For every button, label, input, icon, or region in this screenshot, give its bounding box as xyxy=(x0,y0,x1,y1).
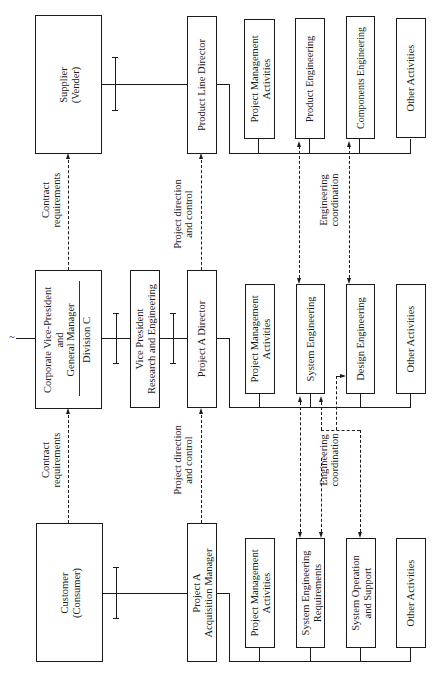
project-a-director-label: Project A Director xyxy=(196,301,208,377)
break-cap xyxy=(113,363,119,364)
mid-other-activities-label: Other Activities xyxy=(405,306,417,373)
direction-label-bottom: Project direction and control xyxy=(172,410,194,510)
stub xyxy=(259,648,260,661)
design-engineering-box: Design Engineering xyxy=(346,284,375,394)
stub xyxy=(360,648,361,661)
contract-dashed-bottom xyxy=(68,415,69,523)
stub xyxy=(259,394,260,407)
break-cap xyxy=(170,363,176,364)
stub xyxy=(310,648,311,661)
bot-other-activities-label: Other Activities xyxy=(405,560,417,627)
supplier-label: Supplier (Vender) xyxy=(57,66,80,103)
top-pm-activities-label: Project Management Activities xyxy=(248,35,271,122)
stub xyxy=(258,139,259,153)
arrow-up-icon xyxy=(66,153,70,159)
system-operation-box: System Operation and Support xyxy=(346,538,376,648)
eng-dashed-3 xyxy=(300,402,301,532)
break-cap xyxy=(170,313,176,314)
system-engineering-label: System Engineering xyxy=(305,297,317,382)
stub xyxy=(360,394,361,407)
acquisition-manager-box: Project A Acquisition Manager xyxy=(187,523,217,662)
arrow-up-icon xyxy=(319,396,323,402)
contract-label-bottom: Contract requirements xyxy=(40,420,62,500)
customer-to-acq-line xyxy=(102,593,187,594)
pld-out-line xyxy=(216,84,229,85)
acquisition-manager-label: Project A Acquisition Manager xyxy=(191,548,214,637)
components-engineering-label: Components Engineering xyxy=(355,27,367,129)
system-engineering-box: System Engineering xyxy=(296,284,325,394)
pad-down-line xyxy=(229,338,230,408)
arrow-up-icon xyxy=(347,141,351,147)
top-other-activities-label: Other Activities xyxy=(405,45,417,112)
direction-dashed-bottom xyxy=(201,415,202,523)
division-divider xyxy=(79,281,80,396)
contract-dashed-top xyxy=(68,160,69,270)
top-pm-activities-box: Project Management Activities xyxy=(244,19,275,139)
stub xyxy=(310,394,311,407)
design-engineering-label: Design Engineering xyxy=(355,297,367,381)
eng-dashed-1 xyxy=(299,146,300,278)
top-bus-line xyxy=(229,153,411,154)
break-cap xyxy=(113,313,119,314)
eng-dashed-6 xyxy=(360,430,361,532)
bot-pm-activities-box: Project Management Activities xyxy=(245,538,275,648)
corp-left-line xyxy=(16,338,35,339)
contract-label-top: Contract requirements xyxy=(40,160,62,240)
break-cap xyxy=(112,110,118,111)
system-operation-label: System Operation and Support xyxy=(350,555,373,631)
vp-research-label: Vice President Research and Engineering xyxy=(134,284,157,394)
pad-out-line xyxy=(216,338,229,339)
eng-label-bottom: Engineering coordination xyxy=(318,420,340,500)
break-cap xyxy=(112,57,118,58)
arrow-up-icon xyxy=(298,396,302,402)
corporate-vp-label: Corporate Vice-President and General Man… xyxy=(42,286,77,392)
arrow-right-icon xyxy=(340,374,346,378)
arrow-down-icon xyxy=(297,278,301,284)
arrow-down-icon xyxy=(347,278,351,284)
product-engineering-label: Product Engineering xyxy=(304,35,316,122)
arrow-up-icon xyxy=(199,153,203,159)
break-mark xyxy=(173,313,174,364)
arrow-down-icon xyxy=(358,532,362,538)
stub xyxy=(309,139,310,153)
bot-other-activities-box: Other Activities xyxy=(396,538,426,648)
pld-down-line xyxy=(229,84,230,154)
top-break-mark xyxy=(115,57,116,111)
acq-out-line xyxy=(216,593,229,594)
eng-dashed-2 xyxy=(349,146,350,278)
product-engineering-box: Product Engineering xyxy=(295,18,325,139)
product-line-director-label: Product Line Director xyxy=(196,39,208,131)
stub xyxy=(410,394,411,407)
break-mark xyxy=(116,567,117,619)
stub xyxy=(359,139,360,153)
arrow-down-icon xyxy=(298,532,302,538)
mid-pm-activities-box: Project Management Activities xyxy=(245,284,275,394)
bot-bus-line xyxy=(229,661,411,662)
system-eng-requirements-label: System Engineering Requirements xyxy=(299,551,322,636)
customer-label: Customer (Consumer) xyxy=(58,567,81,617)
top-other-activities-box: Other Activities xyxy=(396,18,426,138)
customer-box: Customer (Consumer) xyxy=(36,523,103,662)
components-engineering-box: Components Engineering xyxy=(346,16,375,139)
break-mark xyxy=(116,313,117,364)
stub xyxy=(410,139,411,153)
arrow-down-icon xyxy=(319,532,323,538)
product-line-director-box: Product Line Director xyxy=(187,16,217,154)
direction-dashed-top xyxy=(201,160,202,270)
mid-bus-line xyxy=(229,407,411,408)
project-a-director-box: Project A Director xyxy=(187,270,217,408)
vp-research-box: Vice President Research and Engineering xyxy=(130,270,160,408)
division-label: Division C xyxy=(81,317,93,363)
arrow-up-icon xyxy=(297,141,301,147)
supplier-to-pld-line xyxy=(101,84,187,85)
stub xyxy=(410,648,411,661)
tilde-icon: ~ xyxy=(9,331,15,342)
arrow-up-icon xyxy=(199,408,203,414)
corporate-vp-box: Corporate Vice-President and General Man… xyxy=(35,270,102,409)
direction-label-top: Project direction and control xyxy=(172,164,194,264)
break-cap xyxy=(113,618,119,619)
mid-pm-activities-label: Project Management Activities xyxy=(249,295,272,382)
system-eng-requirements-box: System Engineering Requirements xyxy=(296,538,325,648)
bot-pm-activities-label: Project Management Activities xyxy=(249,549,272,636)
arrow-up-icon xyxy=(66,408,70,414)
